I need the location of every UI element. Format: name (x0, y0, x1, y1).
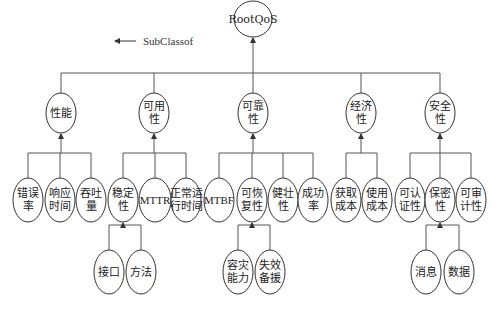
node-label: 量 (86, 200, 97, 213)
node-mtbf: MTBF (204, 178, 234, 222)
node-label: 成功 (302, 187, 324, 200)
node-label: 安全 (429, 99, 451, 113)
node-label: 率 (308, 199, 319, 213)
node-label: 使用 (366, 187, 388, 200)
node-label: 获取 (335, 187, 357, 200)
node-label: 时间 (49, 200, 71, 213)
node-label: 容灾 (227, 258, 249, 272)
node-label: 可认 (399, 187, 421, 200)
node-label: 备援 (259, 271, 281, 285)
node-throughput: 吞吐量 (76, 178, 106, 222)
node-label: 性 (435, 112, 446, 126)
node-label: 吞吐 (80, 187, 102, 200)
node-usage-cost: 使用成本 (362, 178, 392, 222)
legend-label: SubClassof (143, 35, 193, 47)
node-label: 率 (23, 199, 34, 213)
node-label: 性 (278, 199, 289, 213)
node-label: 性 (149, 112, 160, 126)
node-label: 稳定 (112, 186, 134, 200)
nodes: RootQoS性能可用性可靠性经济性安全性错误率响应时间吞吐量稳定性MTTR正常… (13, 1, 486, 294)
node-label: 数据 (448, 265, 470, 279)
node-failover: 失效备援 (255, 250, 285, 294)
node-label: 行时间 (170, 200, 203, 213)
node-label: 保密 (429, 186, 451, 200)
node-label: 性 (118, 199, 129, 213)
node-label: 复性 (241, 199, 263, 213)
node-disaster-tolerance: 容灾能力 (223, 250, 253, 294)
node-label: 经济 (350, 99, 372, 113)
node-response-time: 响应时间 (45, 178, 75, 222)
node-normal-uptime: 正常运行时间 (170, 178, 203, 222)
node-confidentiality: 保密性 (425, 178, 455, 222)
node-label: 成本 (366, 199, 388, 213)
node-label: 接口 (98, 266, 120, 279)
node-stability: 稳定性 (108, 178, 138, 222)
node-recoverability: 可恢复性 (237, 178, 267, 222)
node-label: 方法 (130, 265, 152, 279)
node-method: 方法 (126, 250, 156, 294)
legend: SubClassof (115, 35, 193, 47)
node-error-rate: 错误率 (13, 178, 43, 222)
node-label: 错误 (17, 186, 39, 200)
node-label: MTTR (140, 194, 171, 206)
node-label: 性能 (50, 106, 72, 120)
node-performance: 性能 (46, 93, 76, 133)
node-label: 性 (435, 199, 446, 213)
node-auditability: 可审计性 (456, 178, 486, 222)
node-message: 消息 (411, 250, 441, 294)
node-label: 健壮 (272, 187, 294, 200)
node-label: 可审 (460, 186, 482, 200)
node-label: 可恢 (241, 187, 263, 200)
node-label: 证性 (399, 199, 421, 213)
node-label: 成本 (335, 199, 357, 213)
node-interface: 接口 (94, 250, 124, 294)
node-label: 响应 (49, 186, 71, 200)
node-availability: 可用性 (139, 93, 169, 133)
node-mttr: MTTR (139, 178, 171, 222)
node-data: 数据 (444, 250, 474, 294)
node-label: 能力 (227, 271, 249, 285)
node-authenticability: 可认证性 (395, 178, 425, 222)
node-success-rate: 成功率 (298, 178, 328, 222)
qos-ontology-diagram: SubClassof RootQoS性能可用性可靠性经济性安全性错误率响应时间吞… (0, 0, 501, 309)
node-robustness: 健壮性 (268, 178, 298, 222)
node-label: 正常运 (170, 187, 203, 200)
node-label: MTBF (204, 194, 234, 206)
node-label: 性 (356, 112, 367, 126)
node-label: 计性 (460, 199, 482, 213)
node-label: 可靠 (242, 99, 264, 113)
node-economy: 经济性 (346, 93, 376, 133)
node-label: 消息 (415, 265, 437, 279)
node-reliability: 可靠性 (238, 93, 268, 133)
node-root: RootQoS (228, 1, 277, 37)
node-label: 失效 (259, 258, 281, 272)
node-label: 性 (248, 112, 259, 126)
node-acquisition-cost: 获取成本 (331, 178, 361, 222)
node-label: RootQoS (228, 13, 277, 26)
node-label: 可用 (143, 100, 165, 113)
node-security: 安全性 (425, 93, 455, 133)
